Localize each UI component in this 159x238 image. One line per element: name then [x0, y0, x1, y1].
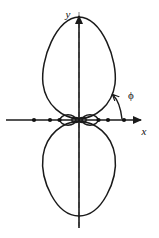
radiation-pattern-figure: y x ϕ [0, 0, 159, 238]
phi-angle-label: ϕ [128, 89, 134, 101]
phi-angle-ray [113, 95, 122, 119]
null-point [57, 118, 61, 122]
y-axis-label: y [65, 8, 71, 20]
null-point [48, 118, 52, 122]
null-point [96, 118, 100, 122]
null-point [32, 118, 36, 122]
x-axis-label: x [141, 125, 147, 137]
null-point [106, 118, 110, 122]
figure-canvas: y x ϕ [0, 0, 159, 238]
